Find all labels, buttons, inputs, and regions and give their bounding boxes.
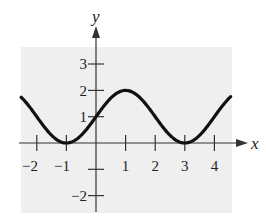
- x-axis-arrow-icon: [236, 139, 248, 147]
- plot-background: [21, 47, 232, 213]
- svg-text:2: 2: [80, 83, 88, 99]
- svg-text:4: 4: [211, 158, 219, 174]
- y-axis-label: y: [90, 7, 100, 26]
- svg-text:2: 2: [151, 158, 159, 174]
- svg-text:−2: −2: [22, 158, 38, 174]
- svg-text:1: 1: [122, 158, 130, 174]
- graph: x y −2 −1 1 2 3 4 3 2 1 −2: [0, 0, 266, 221]
- svg-text:1: 1: [80, 109, 88, 125]
- svg-text:−2: −2: [71, 188, 87, 204]
- x-axis-label: x: [250, 134, 259, 153]
- y-axis-arrow-icon: [92, 26, 100, 38]
- svg-text:3: 3: [181, 158, 189, 174]
- svg-text:3: 3: [80, 56, 88, 72]
- svg-text:−1: −1: [54, 158, 70, 174]
